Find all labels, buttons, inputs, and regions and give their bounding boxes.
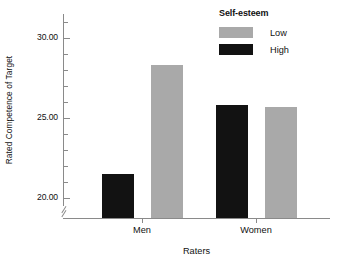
legend-item-low[interactable]: Low — [219, 24, 337, 41]
y-axis-minor-tick — [64, 134, 68, 135]
y-axis-major-tick — [64, 198, 70, 199]
y-axis-minor-tick — [64, 182, 68, 183]
y-axis-major-tick — [64, 118, 70, 119]
legend-label-high: High — [270, 45, 289, 55]
y-axis-tick-label-wrap: 25.00 — [22, 112, 58, 124]
bar-women-high — [216, 105, 248, 218]
y-axis-line — [63, 14, 64, 206]
x-axis-tick — [142, 219, 143, 223]
y-axis-tick-label-wrap: 30.00 — [22, 32, 58, 44]
y-axis-minor-tick — [64, 22, 68, 23]
y-axis-title: Rated Competence of Target — [0, 0, 18, 220]
bar-women-low — [265, 107, 297, 218]
y-axis-minor-tick — [64, 102, 68, 103]
y-axis-minor-tick — [64, 70, 68, 71]
y-axis-tick-label: 20.00 — [22, 192, 58, 202]
legend-title: Self-esteem — [219, 8, 337, 18]
y-axis-tick-label: 30.00 — [22, 32, 58, 42]
y-axis-minor-tick — [64, 150, 68, 151]
y-axis-tick-label: 25.00 — [22, 112, 58, 122]
legend-label-low: Low — [270, 28, 287, 38]
y-axis-major-tick — [64, 38, 70, 39]
y-axis-minor-tick — [64, 86, 68, 87]
legend-swatch-high — [219, 44, 253, 55]
x-axis-line — [63, 218, 330, 219]
x-axis-title: Raters — [63, 246, 330, 256]
y-axis-minor-tick — [64, 166, 68, 167]
bar-men-high — [102, 174, 134, 218]
legend-swatch-low — [219, 27, 253, 38]
y-axis-title-text: Rated Competence of Target — [4, 56, 14, 165]
x-axis-tick-label: Men — [102, 225, 182, 235]
y-axis-tick-label-wrap: 20.00 — [22, 192, 58, 204]
bar-men-low — [151, 65, 183, 218]
legend-item-high[interactable]: High — [219, 41, 337, 58]
bar-chart: Rated Competence of Target 30.0025.0020.… — [0, 0, 345, 266]
x-axis-tick-label: Women — [216, 225, 296, 235]
x-axis-tick — [256, 219, 257, 223]
y-axis-minor-tick — [64, 54, 68, 55]
legend: Self-esteem Low High — [205, 8, 337, 58]
